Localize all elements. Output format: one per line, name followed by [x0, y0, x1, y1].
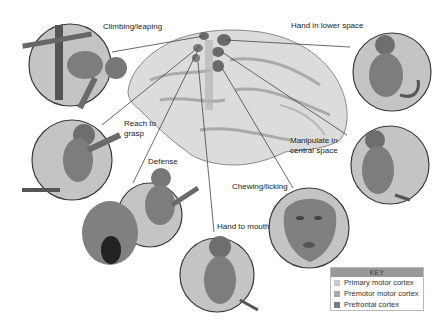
behavior-circle-hand-mouth [180, 236, 258, 312]
behavior-circle-hand-lower [353, 33, 431, 111]
legend-item: Primary motor cortex [331, 277, 423, 288]
label-chewing: Chewing/licking [232, 182, 288, 192]
monkey-head [105, 57, 127, 79]
monkey-head [209, 236, 231, 258]
legend-item: Premotor motor cortex [331, 288, 423, 299]
legend-label: Premotor motor cortex [344, 289, 419, 298]
legend-label: Prefrontal cortex [344, 300, 399, 309]
behavior-circle-chewing [269, 188, 349, 268]
label-hand-lower: Hand in lower space [291, 21, 363, 31]
legend-key: KEY Primary motor cortex Premotor motor … [330, 267, 424, 311]
monkey-body [204, 256, 236, 304]
behavior-circle-reach [22, 120, 120, 200]
region-defense [192, 54, 200, 62]
label-reach: Reach to grasp [124, 119, 156, 139]
monkey-body [369, 53, 403, 97]
monkey-head [375, 35, 395, 55]
legend-item: Prefrontal cortex [331, 299, 423, 310]
mouth [303, 242, 315, 248]
monkey-body [362, 146, 394, 194]
eye [314, 216, 322, 220]
legend-swatch-prefrontal [334, 302, 340, 308]
label-defense: Defense [148, 157, 178, 167]
monkey-body [145, 185, 175, 225]
legend-swatch-primary [334, 280, 340, 286]
label-manipulate: Manipulate in central space [290, 136, 338, 156]
eye [296, 216, 304, 220]
open-mouth [101, 236, 121, 264]
legend-title: KEY [331, 268, 423, 277]
branch [55, 25, 63, 100]
monkey-body [67, 51, 103, 79]
legend-label: Primary motor cortex [344, 278, 414, 287]
label-hand-mouth: Hand to mouth [217, 222, 269, 232]
monkey-tail [240, 300, 258, 310]
region-chewing [212, 60, 224, 72]
monkey-head [151, 168, 171, 188]
legend-swatch-premotor [334, 291, 340, 297]
region-primary-strip [205, 40, 213, 110]
monkey-body [63, 138, 93, 182]
label-climbing: Climbing/leaping [103, 22, 162, 32]
behavior-circle-manipulate [351, 126, 429, 204]
behavior-circle-climbing [22, 24, 127, 108]
